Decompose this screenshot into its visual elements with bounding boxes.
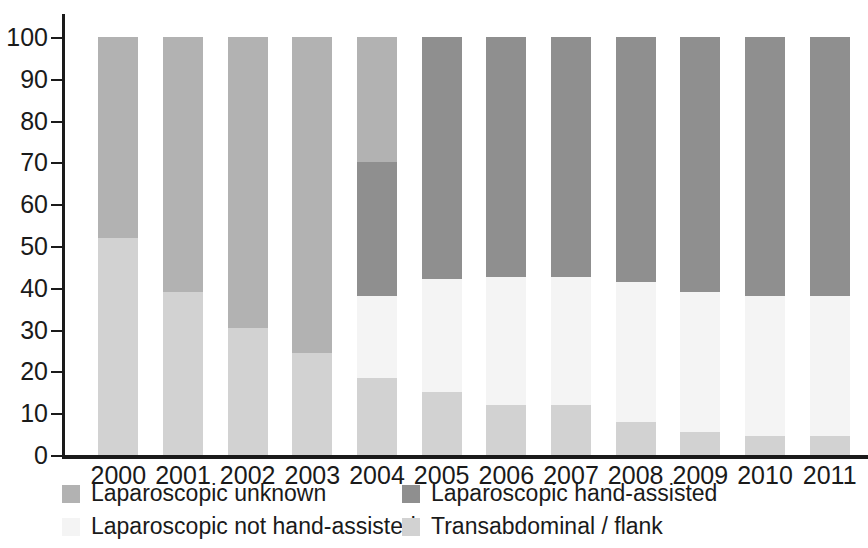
bar-segment[interactable]	[422, 279, 462, 392]
y-axis-tick-label: 40	[20, 275, 48, 300]
bar-segment[interactable]	[163, 292, 203, 455]
y-axis-tick-label: 90	[20, 66, 48, 91]
legend-swatch-laparoscopic-unknown	[62, 485, 80, 503]
bar-segment[interactable]	[422, 392, 462, 455]
bar-segment[interactable]	[486, 277, 526, 404]
bar-group[interactable]	[745, 37, 785, 455]
y-axis-tick-mark	[51, 37, 62, 39]
bar-group[interactable]	[422, 37, 462, 455]
y-axis-tick-label: 50	[20, 234, 48, 259]
y-axis-tick-mark	[51, 79, 62, 81]
bar-segment[interactable]	[292, 353, 332, 455]
legend-item-label: Laparoscopic unknown	[91, 482, 326, 505]
legend-swatch-laparoscopic-not-hand-assisted	[62, 518, 80, 536]
bars-layer	[62, 14, 868, 455]
plot-area: 0102030405060708090100 20002001200220032…	[62, 14, 868, 455]
y-axis-tick-mark	[51, 288, 62, 290]
bar-segment[interactable]	[357, 162, 397, 296]
bar-group[interactable]	[163, 37, 203, 455]
stacked-bar-chart-figure: 0102030405060708090100 20002001200220032…	[0, 0, 868, 548]
legend-swatch-laparoscopic-hand-assisted	[402, 485, 420, 503]
bar-segment[interactable]	[98, 37, 138, 238]
bar-segment[interactable]	[228, 328, 268, 455]
y-axis-tick-label: 60	[20, 192, 48, 217]
legend-item-label: Laparoscopic not hand-assisted	[91, 515, 416, 538]
legend-item[interactable]: Laparoscopic unknown	[62, 482, 326, 505]
bar-segment[interactable]	[810, 436, 850, 455]
bar-segment[interactable]	[422, 37, 462, 279]
bar-group[interactable]	[357, 37, 397, 455]
legend-item[interactable]: Laparoscopic not hand-assisted	[62, 515, 416, 538]
bar-segment[interactable]	[357, 296, 397, 378]
bar-segment[interactable]	[745, 37, 785, 296]
bar-segment[interactable]	[551, 277, 591, 404]
bar-segment[interactable]	[680, 37, 720, 292]
bar-segment[interactable]	[810, 37, 850, 296]
x-axis-line	[62, 455, 868, 459]
bar-group[interactable]	[228, 37, 268, 455]
bar-segment[interactable]	[292, 37, 332, 353]
y-axis-tick-mark	[51, 204, 62, 206]
chart-legend: Laparoscopic unknownLaparoscopic not han…	[62, 482, 868, 544]
y-axis-tick-label: 0	[34, 443, 48, 468]
bar-segment[interactable]	[745, 296, 785, 436]
bar-group[interactable]	[551, 37, 591, 455]
y-axis-tick-mark	[51, 246, 62, 248]
bar-segment[interactable]	[745, 436, 785, 455]
bar-segment[interactable]	[228, 37, 268, 328]
y-axis-tick-mark	[51, 330, 62, 332]
bar-segment[interactable]	[357, 37, 397, 162]
y-axis-tick-mark	[51, 371, 62, 373]
y-axis-tick-mark	[51, 413, 62, 415]
y-axis-tick-mark	[51, 455, 62, 457]
y-axis-tick-label: 100	[6, 25, 48, 50]
bar-segment[interactable]	[680, 292, 720, 432]
legend-item[interactable]: Transabdominal / flank	[402, 515, 663, 538]
y-axis-tick-label: 20	[20, 359, 48, 384]
bar-segment[interactable]	[616, 282, 656, 422]
bar-segment[interactable]	[357, 378, 397, 455]
y-axis-tick-label: 10	[20, 401, 48, 426]
y-axis-tick-mark	[51, 121, 62, 123]
bar-group[interactable]	[292, 37, 332, 455]
legend-item-label: Transabdominal / flank	[431, 515, 663, 538]
bar-segment[interactable]	[551, 405, 591, 455]
y-axis-tick-label: 80	[20, 108, 48, 133]
y-axis-tick-label: 70	[20, 150, 48, 175]
bar-group[interactable]	[486, 37, 526, 455]
bar-segment[interactable]	[163, 37, 203, 292]
y-axis-tick-label: 30	[20, 317, 48, 342]
legend-swatch-transabdominal-flank	[402, 518, 420, 536]
bar-segment[interactable]	[810, 296, 850, 436]
bar-segment[interactable]	[98, 238, 138, 455]
bar-segment[interactable]	[616, 422, 656, 455]
bar-segment[interactable]	[486, 405, 526, 455]
bar-segment[interactable]	[680, 432, 720, 455]
legend-item-label: Laparoscopic hand-assisted	[431, 482, 717, 505]
y-axis-tick-mark	[51, 162, 62, 164]
bar-segment[interactable]	[551, 37, 591, 277]
bar-group[interactable]	[98, 37, 138, 455]
legend-item[interactable]: Laparoscopic hand-assisted	[402, 482, 717, 505]
bar-group[interactable]	[616, 37, 656, 455]
bar-group[interactable]	[680, 37, 720, 455]
bar-group[interactable]	[810, 37, 850, 455]
bar-segment[interactable]	[486, 37, 526, 277]
bar-segment[interactable]	[616, 37, 656, 282]
